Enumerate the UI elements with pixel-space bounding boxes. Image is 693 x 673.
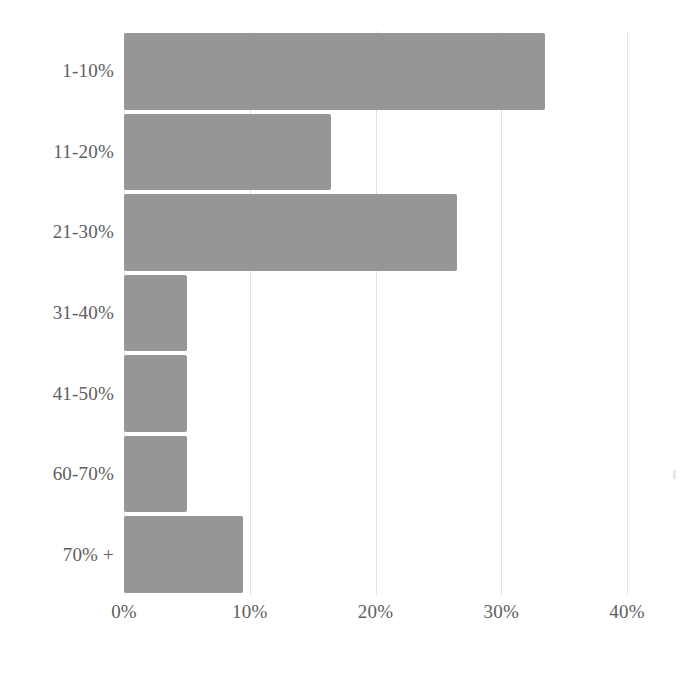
gridline-40% [627,31,628,595]
y-tick-label: 60-70% [0,463,114,485]
bar-row [124,114,627,191]
bar-21-30 [124,194,457,271]
y-tick-label: 11-20% [0,141,114,163]
bar-row [124,516,627,593]
bar-11-20 [124,114,331,191]
bar-1-10 [124,33,545,110]
x-tick-label: 30% [484,601,519,623]
bar-row [124,436,627,513]
y-tick-label: 41-50% [0,383,114,405]
bar-row [124,355,627,432]
bar-41-50 [124,355,187,432]
bars [124,31,627,595]
x-tick-label: 20% [358,601,393,623]
y-tick-label: 21-30% [0,221,114,243]
x-tick-label: 0% [111,601,137,623]
scan-artifact [673,470,676,479]
y-tick-label: 1-10% [0,60,114,82]
bar-60-70 [124,436,187,513]
bar-chart: 1-10%11-20%21-30%31-40%41-50%60-70%70% +… [0,0,693,673]
x-tick-label: 40% [609,601,644,623]
bar-row [124,194,627,271]
bar-31-40 [124,275,187,352]
bar-70 [124,516,243,593]
y-tick-label: 70% + [0,544,114,566]
bar-row [124,33,627,110]
plot-area [124,31,627,595]
x-tick-label: 10% [232,601,267,623]
y-tick-label: 31-40% [0,302,114,324]
bar-row [124,275,627,352]
y-axis: 1-10%11-20%21-30%31-40%41-50%60-70%70% + [0,31,114,595]
x-axis: 0%10%20%30%40% [124,601,627,635]
